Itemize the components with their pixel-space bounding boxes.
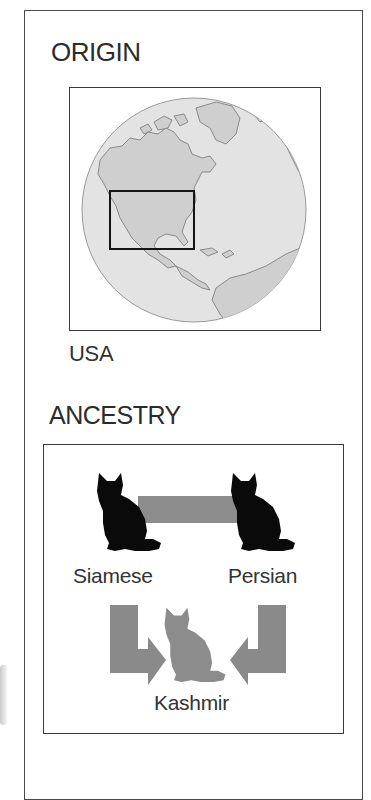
parent-label-persian: Persian: [228, 565, 297, 586]
parent-label-siamese: Siamese: [73, 565, 153, 586]
ancestry-heading: ANCESTRY: [49, 403, 181, 428]
cat-silhouette-icon: [95, 469, 163, 553]
globe-icon: [70, 88, 320, 330]
cat-silhouette-icon: [162, 604, 228, 684]
origin-country-label: USA: [69, 343, 113, 365]
offspring-label-kashmir: Kashmir: [154, 692, 229, 713]
arrow-down-left-icon: [226, 605, 288, 687]
cat-silhouette-icon: [228, 469, 298, 553]
origin-heading: ORIGIN: [51, 39, 140, 65]
arrow-down-right-icon: [108, 605, 170, 687]
scan-smudge: [0, 665, 8, 725]
origin-map: [69, 87, 321, 331]
